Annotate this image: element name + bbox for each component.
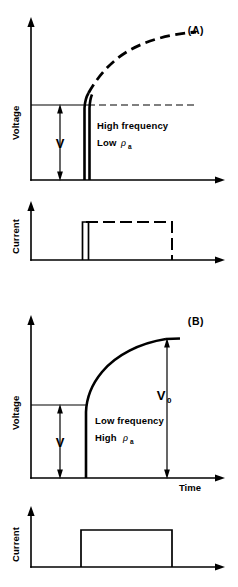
- panel-a-current-wide-dashed-pulse: [86, 222, 172, 260]
- panel-b-voltage-x-arrowhead: [215, 474, 225, 481]
- panel-b-current-x-arrowhead: [215, 563, 225, 570]
- figure-root: Voltage (A) V High frequency Low ρ a Cu: [0, 0, 238, 587]
- panel-a-voltage-axis-label: Voltage: [10, 106, 21, 140]
- panel-a-voltage-riser-right: [90, 95, 93, 181]
- panel-a-v-dimension-label: V: [56, 136, 65, 151]
- panel-a-current-axis-label: Current: [10, 218, 21, 254]
- panel-b-v-dimension-label: V: [56, 435, 65, 450]
- panel-a-current-y-arrowhead: [27, 201, 34, 211]
- panel-b-annotation-rho-subscript: a: [130, 438, 134, 445]
- panel-a-annotation-rho-subscript: a: [128, 143, 132, 150]
- panel-a-annotation-frequency: High frequency: [97, 120, 169, 131]
- panel-b-annotation-rho-symbol: ρ: [122, 432, 128, 443]
- panel-b-annotation-rho: High ρ a: [95, 432, 134, 445]
- panel-b-voltage: Voltage (B) V V 0 Low frequency High ρ a…: [10, 315, 225, 493]
- panel-a-voltage-decay-curve: [89, 32, 197, 93]
- panel-a-annotation-rho-symbol: ρ: [120, 137, 126, 148]
- panel-b-voltage-curve: [86, 339, 166, 478]
- panel-a-annotation-rho: Low ρ a: [97, 137, 132, 150]
- panel-b-v0-dimension-letter: V: [157, 388, 166, 403]
- figure-canvas: Voltage (A) V High frequency Low ρ a Cu: [0, 0, 238, 587]
- panel-b-current-axis-label: Current: [10, 526, 21, 562]
- panel-a-voltage-riser-left: [85, 93, 89, 180]
- panel-b-time-axis-label: Time: [179, 482, 201, 493]
- panel-b-voltage-axis-label: Voltage: [10, 396, 21, 430]
- panel-b-v0-dimension-subscript: 0: [167, 396, 172, 405]
- panel-b-current: Current: [10, 506, 225, 571]
- panel-b-current-y-arrowhead: [27, 506, 34, 516]
- panel-a-current-narrow-pulse: [83, 222, 89, 260]
- panel-a-tag: (A): [188, 24, 204, 36]
- panel-b-voltage-plateau: [166, 339, 180, 340]
- panel-b-annotation-rho-prefix: High: [95, 432, 117, 443]
- panel-a-annotation-rho-prefix: Low: [97, 137, 117, 148]
- panel-b-voltage-y-arrowhead: [27, 315, 34, 325]
- panel-a-voltage-y-arrowhead: [27, 17, 34, 27]
- panel-b-annotation-frequency: Low frequency: [95, 415, 165, 426]
- panel-a-voltage-x-arrowhead: [215, 176, 225, 183]
- panel-a-voltage: Voltage (A) V High frequency Low ρ a: [10, 17, 225, 184]
- panel-a-current-x-arrowhead: [215, 256, 225, 263]
- panel-b-tag: (B): [188, 315, 204, 327]
- panel-a-current: Current: [10, 201, 225, 264]
- panel-b-v0-dimension-label: V 0: [157, 388, 172, 405]
- panel-b-current-pulse: [81, 530, 172, 567]
